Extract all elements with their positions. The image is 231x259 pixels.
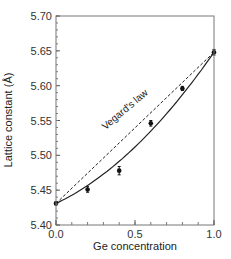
data-point [117,168,122,173]
lattice-constant-chart: 5.405.455.505.555.605.655.700.00.51.0 Ge… [0,0,231,259]
vegards-law-line [56,52,214,203]
x-axis-label: Ge concentration [93,240,177,252]
y-axis-label: Lattice constant (Å) [2,73,14,168]
axes: 5.405.455.505.555.605.655.700.00.51.0 [31,10,222,240]
y-tick-label: 5.45 [31,184,52,196]
x-tick-label: 0.0 [48,228,63,240]
vegards-law-annotation: Vegard's law [100,86,151,131]
y-tick-label: 5.65 [31,45,52,57]
data-point [85,187,90,192]
y-tick-label: 5.70 [31,10,52,22]
x-tick-label: 0.5 [127,228,142,240]
plot-frame [56,16,214,225]
x-tick-label: 1.0 [206,228,221,240]
y-tick-label: 5.60 [31,80,52,92]
y-tick-label: 5.55 [31,115,52,127]
plot-area [54,49,217,205]
y-tick-label: 5.50 [31,149,52,161]
data-point [149,121,154,126]
data-point [180,86,185,91]
